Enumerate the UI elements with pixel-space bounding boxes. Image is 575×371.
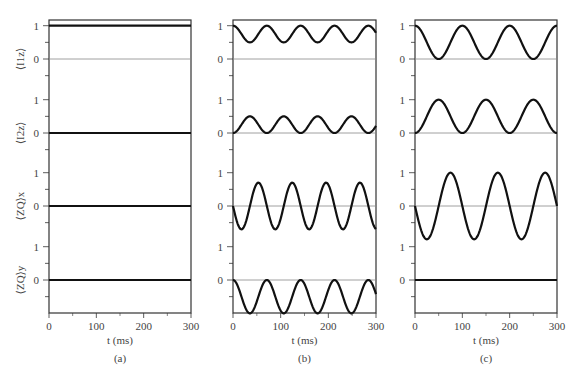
x-tick-label: 300	[183, 320, 200, 332]
plot-frame	[233, 20, 376, 313]
x-tick-label: 300	[368, 320, 385, 332]
x-tick-label: 0	[46, 320, 52, 332]
y-tick-label: 1	[34, 167, 40, 179]
curve-ZQy	[233, 280, 376, 313]
curve-I2z	[233, 116, 376, 133]
y-axis-label: ⟨ZQ⟩x	[14, 191, 26, 220]
y-tick-label: 0	[218, 200, 224, 212]
y-tick-label: 0	[34, 53, 40, 65]
curve-I1z	[415, 26, 557, 59]
x-axis-label: t (ms)	[292, 334, 318, 347]
y-tick-label: 0	[400, 53, 406, 65]
panel-c: 101010100100200300t (ms)(c)	[400, 20, 566, 365]
panel-label: (a)	[114, 352, 127, 365]
y-tick-label: 1	[400, 167, 406, 179]
x-tick-label: 300	[549, 320, 566, 332]
x-tick-label: 0	[412, 320, 418, 332]
panel-label: (c)	[480, 352, 493, 365]
x-tick-label: 200	[135, 320, 152, 332]
y-tick-label: 0	[400, 200, 406, 212]
y-tick-label: 1	[34, 20, 40, 32]
y-axis-label: ⟨I2z⟩	[14, 122, 26, 145]
x-tick-label: 100	[454, 320, 471, 332]
y-tick-label: 1	[400, 94, 406, 106]
x-tick-label: 0	[230, 320, 236, 332]
y-tick-label: 0	[218, 127, 224, 139]
y-tick-label: 0	[400, 274, 406, 286]
y-tick-label: 1	[34, 94, 40, 106]
x-axis-label: t (ms)	[473, 334, 499, 347]
curve-I2z	[415, 100, 557, 133]
plot-frame	[415, 20, 557, 313]
y-tick-label: 1	[218, 20, 224, 32]
x-axis-label: t (ms)	[107, 334, 133, 347]
y-tick-label: 0	[34, 200, 40, 212]
y-tick-label: 1	[400, 20, 406, 32]
y-tick-label: 1	[218, 94, 224, 106]
y-axis-label: ⟨I1z⟩	[14, 48, 26, 71]
y-tick-label: 1	[34, 241, 40, 253]
y-tick-label: 1	[218, 167, 224, 179]
y-tick-label: 1	[400, 241, 406, 253]
x-tick-label: 200	[501, 320, 518, 332]
x-tick-label: 100	[272, 320, 289, 332]
y-tick-label: 0	[218, 53, 224, 65]
y-tick-label: 0	[218, 274, 224, 286]
y-axis-label: ⟨ZQ⟩y	[14, 265, 26, 294]
panel-label: (b)	[298, 352, 311, 365]
y-tick-label: 0	[34, 127, 40, 139]
y-tick-label: 0	[34, 274, 40, 286]
y-tick-label: 1	[218, 241, 224, 253]
x-tick-label: 200	[320, 320, 337, 332]
figure: 10101010⟨I1z⟩⟨I2z⟩⟨ZQ⟩x⟨ZQ⟩y0100200300t …	[0, 0, 575, 371]
y-tick-label: 0	[400, 127, 406, 139]
curve-I1z	[233, 26, 376, 43]
plot-frame	[49, 20, 191, 313]
panel-a: 10101010⟨I1z⟩⟨I2z⟩⟨ZQ⟩x⟨ZQ⟩y0100200300t …	[14, 20, 200, 365]
panel-b: 101010100100200300t (ms)(b)	[218, 20, 385, 365]
x-tick-label: 100	[88, 320, 105, 332]
